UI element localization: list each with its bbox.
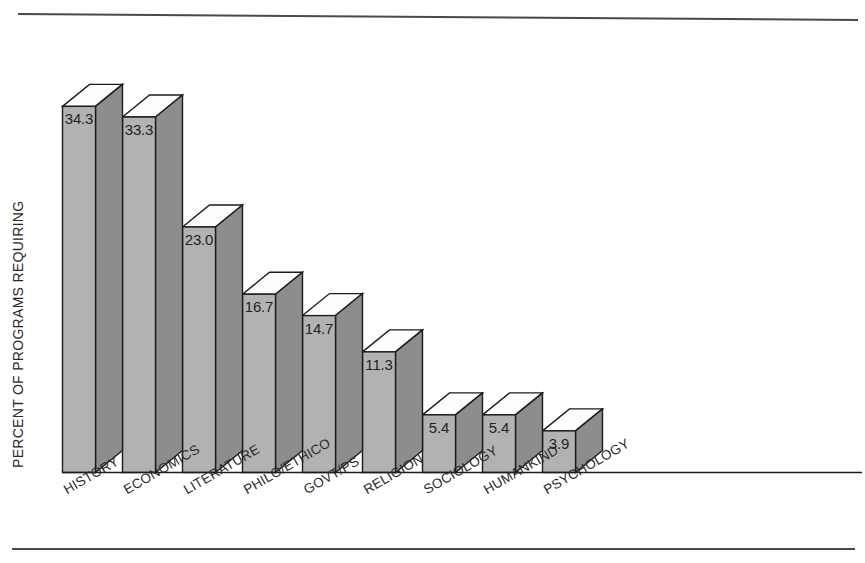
bar-value-label: 34.3 (65, 110, 93, 127)
bar-side-face (396, 330, 423, 473)
bar-side-face (216, 205, 243, 473)
bar-side-face (276, 272, 303, 472)
bar-group: 33.3 (123, 95, 183, 472)
bar-group: 11.3 (363, 330, 423, 473)
bar-value-label: 16.7 (245, 298, 273, 315)
bars-layer: 3.95.45.411.314.716.723.033.334.3 (63, 84, 603, 472)
bar-front-face (63, 106, 96, 472)
bar-value-label: 11.3 (365, 356, 392, 373)
bar-chart-figure: PERCENT OF PROGRAMS REQUIRING 3.95.45.41… (0, 0, 865, 563)
bar-side-face (336, 294, 363, 473)
bar-value-label: 33.3 (125, 121, 153, 138)
y-axis-title-text: PERCENT OF PROGRAMS REQUIRING (10, 201, 26, 468)
chart-page: PERCENT OF PROGRAMS REQUIRING 3.95.45.41… (0, 0, 865, 563)
top-rule (18, 14, 858, 20)
y-axis-title: PERCENT OF PROGRAMS REQUIRING (10, 201, 26, 468)
bar-value-label: 14.7 (305, 320, 333, 337)
bar-group: 23.0 (183, 205, 243, 473)
bar-group: 34.3 (63, 84, 123, 472)
bar-value-label: 5.4 (429, 419, 449, 436)
bar-side-face (156, 95, 183, 472)
bar-value-label: 23.0 (185, 231, 213, 248)
bar-side-face (96, 84, 123, 472)
bar-front-face (123, 117, 156, 472)
bar-value-label: 5.4 (489, 419, 509, 436)
bar-front-face (183, 227, 216, 473)
